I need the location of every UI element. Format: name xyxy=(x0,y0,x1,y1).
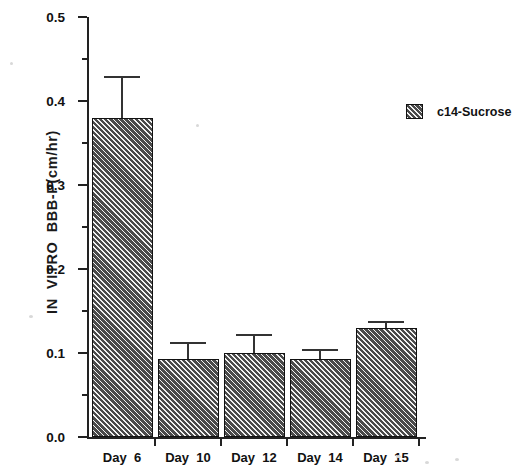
y-tick-minor xyxy=(82,310,87,312)
x-category-label: Day 10 xyxy=(165,450,211,465)
scan-artifact xyxy=(29,315,33,318)
error-bar-stem xyxy=(121,76,123,118)
error-bar-cap xyxy=(104,76,140,78)
x-category-label: Day 15 xyxy=(363,450,409,465)
x-category-label: Day 14 xyxy=(297,450,343,465)
chart-figure: IN VITRO BBB-P(cm/hr) 0.00.10.20.30.40.5… xyxy=(0,0,513,471)
legend-label: c14-Sucrose xyxy=(437,105,511,119)
x-axis-line xyxy=(87,437,426,439)
y-tick-label: 0.4 xyxy=(46,94,65,109)
error-bar-stem xyxy=(187,342,189,359)
error-bar-cap xyxy=(302,349,338,351)
bar xyxy=(92,118,153,437)
plot-area: 0.00.10.20.30.40.5 Day 6Day 10Day 12Day … xyxy=(87,17,427,437)
y-tick-minor xyxy=(82,394,87,396)
x-tick xyxy=(220,438,222,446)
bar xyxy=(224,353,285,437)
scan-artifact xyxy=(196,124,199,127)
x-tick xyxy=(154,438,156,446)
y-tick-label: 0.0 xyxy=(46,430,65,445)
error-bar-stem xyxy=(253,334,255,353)
error-bar-cap xyxy=(236,334,272,336)
x-category-label: Day 12 xyxy=(231,450,277,465)
x-tick xyxy=(418,438,420,446)
y-axis-line xyxy=(87,17,89,438)
y-tick-major: 0.3 xyxy=(78,184,87,186)
y-tick-label: 0.3 xyxy=(46,178,65,193)
legend: c14-Sucrose xyxy=(406,104,511,119)
y-tick-label: 0.5 xyxy=(46,10,65,25)
y-tick-minor xyxy=(82,142,87,144)
x-tick xyxy=(286,438,288,446)
y-tick-major: 0.0 xyxy=(78,436,87,438)
scan-artifact xyxy=(455,458,459,461)
y-tick-major: 0.4 xyxy=(78,100,87,102)
legend-swatch-icon xyxy=(406,104,423,119)
bar xyxy=(158,359,219,437)
bar xyxy=(356,328,417,437)
scan-artifact xyxy=(425,461,429,464)
y-tick-major: 0.5 xyxy=(78,16,87,18)
y-tick-major: 0.2 xyxy=(78,268,87,270)
y-axis-title: IN VITRO BBB-P(cm/hr) xyxy=(44,72,60,372)
y-tick-label: 0.1 xyxy=(46,346,65,361)
error-bar-cap xyxy=(368,321,404,323)
scan-artifact xyxy=(10,62,13,65)
x-category-label: Day 6 xyxy=(103,450,141,465)
y-tick-major: 0.1 xyxy=(78,352,87,354)
bar xyxy=(290,359,351,437)
y-tick-label: 0.2 xyxy=(46,262,65,277)
scan-artifact xyxy=(396,455,401,458)
y-tick-minor xyxy=(82,226,87,228)
x-tick xyxy=(352,438,354,446)
error-bar-cap xyxy=(170,342,206,344)
y-tick-minor xyxy=(82,58,87,60)
